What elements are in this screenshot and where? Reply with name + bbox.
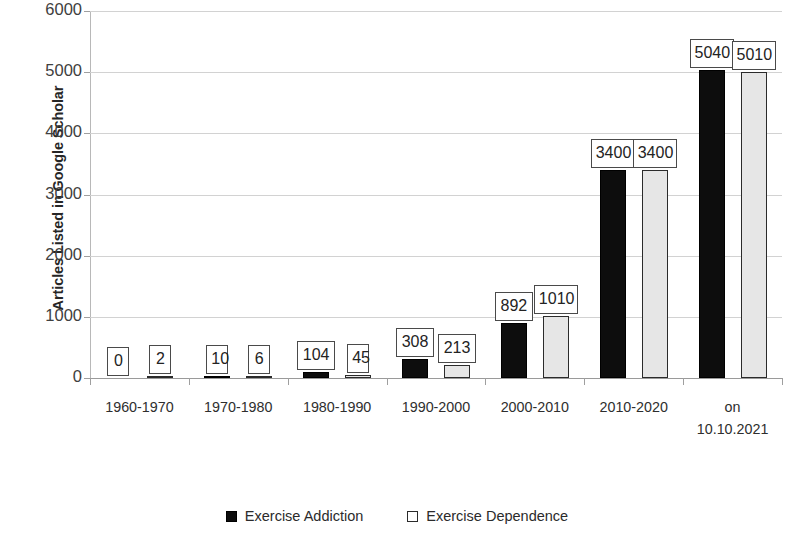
gridline-0 [90,378,782,379]
data-label-addiction-2: 104 [297,341,335,370]
gridline-4000 [90,133,782,134]
legend-swatch-dependence-icon [407,511,418,522]
legend-label-dependence: Exercise Dependence [426,508,568,524]
bar-dependence-1 [246,376,272,378]
data-label-addiction-4: 892 [495,292,533,321]
data-label-dependence-6: 5010 [732,41,776,70]
x-category-label-0: 1960-1970 [90,396,189,418]
x-divider-7 [782,378,783,385]
x-category-label-3: 1990-2000 [387,396,486,418]
data-label-addiction-6: 5040 [690,39,734,68]
x-divider-0 [90,378,91,385]
y-tick-label-1000: 1000 [18,306,82,325]
data-label-dependence-3: 213 [438,334,476,363]
x-divider-6 [683,378,684,385]
data-label-addiction-0: 0 [107,347,129,376]
data-label-dependence-5: 3400 [633,139,677,168]
bar-dependence-4 [543,316,569,378]
gridline-6000 [90,11,782,12]
bar-dependence-0 [147,376,173,378]
x-divider-1 [189,378,190,385]
bar-dependence-3 [444,365,470,378]
data-label-addiction-5: 3400 [591,139,635,168]
plot-area: 021061044530821389210103400340050405010 [90,11,782,378]
data-label-dependence-4: 1010 [534,285,578,314]
gridline-1000 [90,317,782,318]
chart-legend: Exercise AddictionExercise Dependence [0,508,794,524]
bar-chart: Articles Listed in Google Scholar 010002… [0,0,794,549]
x-divider-4 [485,378,486,385]
y-tick-label-0: 0 [18,367,82,386]
data-label-dependence-2: 45 [347,344,369,373]
x-divider-2 [288,378,289,385]
data-label-addiction-1: 10 [206,345,228,374]
bar-addiction-4 [501,323,527,378]
x-category-label-5: 2010-2020 [584,396,683,418]
y-tick-label-3000: 3000 [18,184,82,203]
y-tick-label-5000: 5000 [18,61,82,80]
y-tick-label-4000: 4000 [18,122,82,141]
bar-addiction-2 [303,372,329,378]
bar-addiction-5 [600,170,626,378]
gridline-5000 [90,72,782,73]
y-tick-label-6000: 6000 [18,0,82,19]
data-label-dependence-1: 6 [248,345,270,374]
legend-item-addiction[interactable]: Exercise Addiction [226,508,363,524]
data-label-addiction-3: 308 [396,328,434,357]
x-category-label-4: 2000-2010 [485,396,584,418]
bar-dependence-2 [345,375,371,378]
gridline-3000 [90,195,782,196]
legend-item-dependence[interactable]: Exercise Dependence [407,508,568,524]
bar-addiction-6 [699,70,725,378]
x-category-label-2: 1980-1990 [288,396,387,418]
legend-label-addiction: Exercise Addiction [245,508,363,524]
data-label-dependence-0: 2 [149,345,171,374]
bar-addiction-3 [402,359,428,378]
bar-dependence-5 [642,170,668,378]
legend-swatch-addiction-icon [226,511,237,522]
bar-dependence-6 [741,72,767,378]
x-divider-3 [387,378,388,385]
x-category-label-6: on 10.10.2021 [683,396,782,440]
x-category-label-1: 1970-1980 [189,396,288,418]
y-tick-label-2000: 2000 [18,245,82,264]
x-divider-5 [584,378,585,385]
bar-addiction-1 [204,376,230,378]
gridline-2000 [90,256,782,257]
